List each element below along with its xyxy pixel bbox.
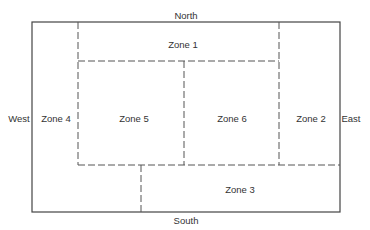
label-south: South — [174, 215, 199, 226]
label-north: North — [174, 10, 197, 21]
zone-5-label: Zone 5 — [119, 113, 149, 124]
zone-4-label: Zone 4 — [41, 113, 71, 124]
label-west: West — [8, 113, 29, 124]
zone-2-label: Zone 2 — [296, 113, 326, 124]
zone-1-label: Zone 1 — [168, 39, 198, 50]
zone-6-label: Zone 6 — [217, 113, 247, 124]
label-east: East — [341, 113, 360, 124]
zone-3-label: Zone 3 — [225, 184, 255, 195]
